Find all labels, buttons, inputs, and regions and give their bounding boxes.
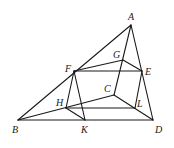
point-label-E: E — [144, 66, 151, 77]
point-label-L: L — [136, 98, 143, 109]
point-label-F: F — [64, 63, 72, 74]
point-label-G: G — [113, 49, 120, 60]
point-label-C: C — [104, 83, 111, 94]
segment-FK — [74, 71, 85, 120]
segment-FG — [74, 60, 123, 71]
geometry-diagram: ABCDEFGHKL — [0, 0, 174, 148]
point-label-D: D — [154, 124, 163, 135]
point-labels: ABCDEFGHKL — [12, 11, 163, 135]
point-label-B: B — [12, 124, 18, 135]
point-label-H: H — [55, 97, 64, 108]
point-label-A: A — [127, 11, 135, 22]
point-label-K: K — [80, 124, 89, 135]
edges — [18, 25, 153, 120]
